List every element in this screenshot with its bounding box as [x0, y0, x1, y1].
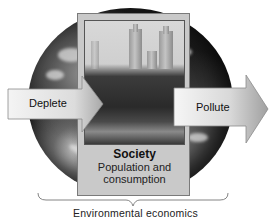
- diagram: Society Population and consumption Deple…: [0, 0, 271, 224]
- brace: [38, 193, 228, 206]
- arrows-layer: [0, 0, 271, 224]
- pollute-label: Pollute: [196, 101, 230, 113]
- environmental-economics-label: Environmental economics: [0, 207, 271, 219]
- deplete-label: Deplete: [29, 97, 67, 109]
